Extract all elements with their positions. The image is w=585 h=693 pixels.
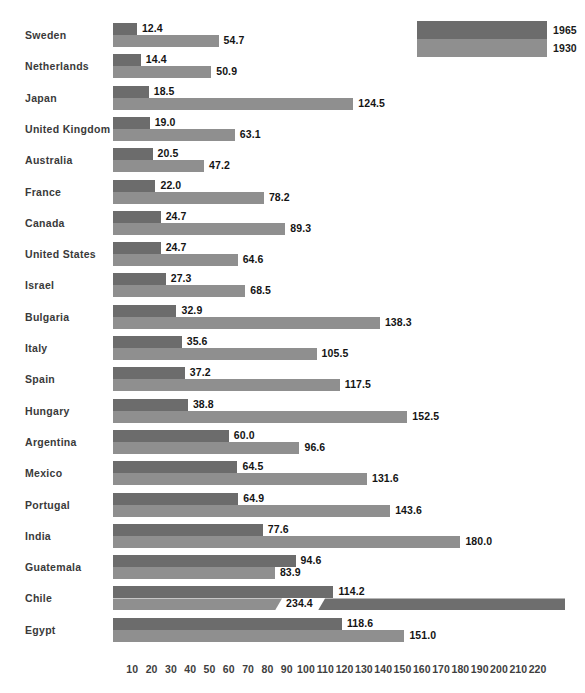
bar-1965 [113, 367, 185, 379]
bar-1930 [113, 505, 390, 517]
chart-row: Netherlands14.450.9 [0, 52, 585, 83]
bar-1930 [113, 473, 367, 485]
bar-1930 [113, 98, 353, 110]
bar-1965 [113, 336, 182, 348]
chart-row: France22.078.2 [0, 178, 585, 209]
x-tick-label: 220 [529, 663, 547, 675]
x-tick-label: 130 [355, 663, 373, 675]
category-label-spain: Spain [25, 373, 55, 385]
bar-value-1930: 50.9 [216, 65, 237, 77]
bar-value-1930: 152.5 [412, 410, 439, 422]
bar-value-1930: 63.1 [240, 128, 261, 140]
category-label-israel: Israel [25, 279, 54, 291]
x-axis: 1020304050607080901001101201301401501601… [0, 663, 585, 681]
x-tick-label: 50 [204, 663, 216, 675]
bar-value-1930: 234.4 [286, 597, 313, 609]
bar-1965 [113, 555, 296, 567]
bar-1930 [113, 129, 235, 141]
bar-value-1965: 32.9 [181, 304, 202, 316]
category-label-canada: Canada [25, 217, 65, 229]
chart-row: Spain37.2117.5 [0, 365, 585, 396]
bar-1965 [113, 23, 137, 35]
bar-1930 [113, 536, 460, 548]
chart-row: Italy35.6105.5 [0, 334, 585, 365]
x-tick-label: 200 [490, 663, 508, 675]
bar-1965 [113, 86, 149, 98]
bar-value-1930: 105.5 [322, 347, 349, 359]
bar-1930 [113, 442, 299, 454]
x-tick-label: 160 [413, 663, 431, 675]
bar-1930 [113, 35, 219, 47]
bar-1930 [113, 160, 204, 172]
bar-1930 [113, 567, 275, 579]
x-tick-label: 80 [261, 663, 273, 675]
bar-value-1965: 38.8 [193, 398, 214, 410]
category-label-hungary: Hungary [25, 405, 70, 417]
category-label-united-kingdom: United Kingdom [25, 123, 110, 135]
bar-value-1930: 68.5 [250, 284, 271, 296]
bar-1965 [113, 148, 153, 160]
chart-row: Israel27.368.5 [0, 271, 585, 302]
bar-value-1965: 14.4 [146, 53, 167, 65]
bar-1930-segment-tail [318, 598, 565, 610]
category-label-united-states: United States [25, 248, 96, 260]
x-tick-label: 100 [297, 663, 315, 675]
chart-row: Egypt118.6151.0 [0, 616, 585, 647]
chart-row: Chile114.2234.4 [0, 584, 585, 615]
x-tick-label: 110 [317, 663, 334, 675]
x-tick-label: 140 [374, 663, 392, 675]
category-label-portugal: Portugal [25, 499, 70, 511]
x-tick-label: 30 [165, 663, 177, 675]
bar-value-1930: 96.6 [304, 441, 325, 453]
bar-value-1965: 64.9 [243, 492, 264, 504]
bar-1965 [113, 54, 141, 66]
bar-value-1965: 22.0 [160, 179, 181, 191]
bar-1965 [113, 180, 155, 192]
chart-row: United Kingdom19.063.1 [0, 115, 585, 146]
bar-1965 [113, 461, 237, 473]
bar-value-1930: 47.2 [209, 159, 230, 171]
bar-1965 [113, 399, 188, 411]
category-label-japan: Japan [25, 92, 57, 104]
category-label-australia: Australia [25, 154, 73, 166]
bar-value-1965: 20.5 [158, 147, 179, 159]
horizontal-bar-chart: 1965 1930 Sweden12.454.7Netherlands14.45… [0, 0, 585, 693]
chart-row: Guatemala94.683.9 [0, 553, 585, 584]
chart-row: Australia20.547.2 [0, 146, 585, 177]
chart-row: Bulgaria32.9138.3 [0, 303, 585, 334]
x-tick-label: 90 [281, 663, 293, 675]
bar-1930 [113, 192, 264, 204]
bar-value-1965: 27.3 [171, 272, 192, 284]
bar-value-1930: 180.0 [465, 535, 492, 547]
bar-value-1930: 78.2 [269, 191, 290, 203]
bar-1965 [113, 493, 238, 505]
bar-value-1930: 124.5 [358, 97, 385, 109]
bar-1965 [113, 117, 150, 129]
bar-value-1965: 35.6 [187, 335, 208, 347]
bar-1965 [113, 524, 263, 536]
category-label-bulgaria: Bulgaria [25, 311, 69, 323]
chart-row: Sweden12.454.7 [0, 21, 585, 52]
chart-row: India77.6180.0 [0, 522, 585, 553]
bar-value-1930: 83.9 [280, 566, 301, 578]
bar-value-1965: 19.0 [155, 116, 176, 128]
bar-value-1930: 143.6 [395, 504, 422, 516]
bar-value-1965: 64.5 [242, 460, 263, 472]
bar-1930 [113, 379, 340, 391]
x-tick-label: 170 [432, 663, 450, 675]
x-tick-label: 210 [509, 663, 527, 675]
bar-1965 [113, 305, 176, 317]
bar-1930 [113, 66, 211, 78]
bar-1965 [113, 430, 229, 442]
category-label-india: India [25, 530, 51, 542]
bar-1965 [113, 211, 161, 223]
chart-row: Argentina60.096.6 [0, 428, 585, 459]
bar-value-1965: 24.7 [166, 241, 187, 253]
category-label-chile: Chile [25, 592, 52, 604]
category-label-mexico: Mexico [25, 467, 62, 479]
category-label-italy: Italy [25, 342, 48, 354]
bar-value-1965: 60.0 [234, 429, 255, 441]
bar-value-1930: 54.7 [224, 34, 245, 46]
bar-value-1930: 64.6 [243, 253, 264, 265]
x-tick-label: 180 [451, 663, 469, 675]
